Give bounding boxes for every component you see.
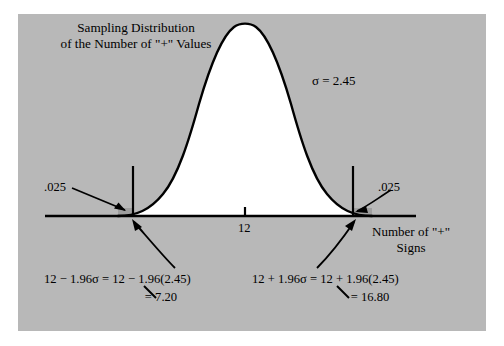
left-formula-connector-arrow bbox=[134, 222, 175, 268]
right-tail-area-label: .025 bbox=[378, 180, 400, 195]
center-tick-label: 12 bbox=[238, 221, 251, 236]
figure-title-line2: of the Number of "+" Values bbox=[61, 36, 212, 51]
figure-title: Sampling Distribution of the Number of "… bbox=[34, 20, 238, 52]
figure-title-line1: Sampling Distribution bbox=[77, 20, 195, 35]
x-axis-title-line1: Number of "+" bbox=[372, 224, 450, 239]
x-axis-title: Number of "+" Signs bbox=[352, 224, 470, 256]
lower-critical-formula-result: = 7.20 bbox=[44, 290, 244, 305]
lower-critical-formula-line1: 12 − 1.96σ = 12 − 1.96(2.45) bbox=[44, 272, 191, 286]
right-formula-connector-arrow bbox=[317, 222, 354, 268]
sigma-value-label: σ = 2.45 bbox=[312, 73, 356, 89]
upper-critical-formula-result: = 16.80 bbox=[252, 290, 458, 305]
left-tail-pointer-arrowhead bbox=[114, 203, 126, 212]
left-tail-area-label: .025 bbox=[44, 180, 66, 195]
upper-critical-value-formula: 12 + 1.96σ = 12 + 1.96(2.45) = 16.80 bbox=[252, 272, 458, 306]
normal-curve-fill bbox=[118, 24, 372, 216]
lower-critical-value-formula: 12 − 1.96σ = 12 − 1.96(2.45) = 7.20 bbox=[44, 272, 244, 306]
x-axis-title-line2: Signs bbox=[397, 240, 426, 255]
upper-critical-formula-line1: 12 + 1.96σ = 12 + 1.96(2.45) bbox=[252, 272, 399, 286]
figure-root: Sampling Distribution of the Number of "… bbox=[0, 0, 504, 346]
